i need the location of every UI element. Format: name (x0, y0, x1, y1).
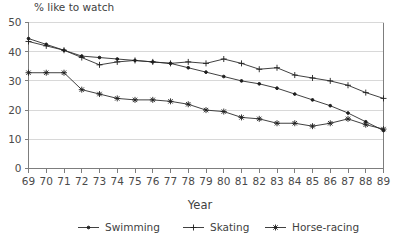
x-tick-label-79: 79 (199, 175, 212, 187)
datapoint-horse-racing-80 (221, 109, 227, 115)
datapoint-swimming-84 (293, 93, 296, 96)
datapoint-swimming-78 (187, 66, 190, 69)
legend-item-skating[interactable]: Skating (183, 221, 249, 233)
datapoint-horse-racing-82 (256, 116, 262, 122)
legend-marker-plus (191, 225, 197, 231)
chart-title: % like to watch (34, 1, 114, 13)
datapoint-horse-racing-87 (345, 116, 351, 122)
x-tick-label-87: 87 (341, 175, 354, 187)
datapoint-horse-racing-78 (185, 101, 191, 107)
x-tick-label-73: 73 (93, 175, 106, 187)
datapoint-swimming-82 (258, 82, 261, 85)
x-tick-label-82: 82 (253, 175, 266, 187)
x-tick-label-88: 88 (359, 175, 372, 187)
datapoint-horse-racing-71 (61, 70, 67, 76)
datapoint-horse-racing-77 (168, 98, 174, 104)
datapoint-skating-83 (274, 65, 280, 71)
datapoint-horse-racing-84 (292, 120, 298, 126)
y-tick-label-20: 20 (8, 104, 21, 116)
y-tick-label-40: 40 (8, 46, 21, 58)
x-tick-label-74: 74 (111, 175, 125, 187)
datapoint-skating-78 (185, 59, 191, 65)
datapoint-horse-racing-88 (363, 122, 369, 128)
datapoint-skating-84 (292, 72, 298, 78)
series-line-swimming (29, 39, 384, 131)
datapoint-swimming-85 (311, 99, 314, 102)
datapoint-skating-80 (221, 56, 227, 62)
legend-label: Swimming (105, 221, 160, 233)
x-tick-label-77: 77 (164, 175, 177, 187)
datapoint-swimming-73 (98, 56, 101, 59)
datapoint-swimming-79 (205, 71, 208, 74)
datapoint-horse-racing-89 (381, 126, 387, 132)
datapoint-skating-73 (97, 62, 103, 68)
y-tick-label-30: 30 (8, 75, 21, 87)
x-tick-label-76: 76 (146, 175, 160, 187)
datapoint-skating-86 (327, 78, 333, 84)
legend-label: Skating (210, 221, 249, 233)
series-horse-racing (26, 70, 387, 132)
datapoint-horse-racing-81 (239, 114, 245, 120)
datapoint-horse-racing-69 (26, 70, 32, 76)
x-tick-label-89: 89 (377, 175, 390, 187)
datapoint-horse-racing-74 (114, 95, 120, 101)
x-tick-label-71: 71 (57, 175, 70, 187)
datapoint-skating-89 (381, 95, 387, 101)
y-tick-label-10: 10 (8, 133, 21, 145)
datapoint-swimming-81 (240, 80, 243, 83)
datapoint-skating-82 (256, 66, 262, 72)
datapoint-skating-76 (150, 59, 156, 65)
line-chart: 01020304050 6970717273747576777879808182… (0, 0, 404, 244)
datapoint-swimming-80 (222, 75, 225, 78)
legend-item-swimming[interactable]: Swimming (78, 221, 160, 233)
datapoint-skating-85 (310, 75, 316, 81)
x-tick-label-81: 81 (235, 175, 248, 187)
x-tick-label-78: 78 (182, 175, 195, 187)
x-axis-title: Year (187, 198, 213, 212)
datapoint-skating-81 (239, 60, 245, 66)
datapoint-horse-racing-79 (203, 107, 209, 113)
datapoint-skating-74 (114, 59, 120, 65)
y-tick-label-0: 0 (15, 162, 22, 174)
x-tick-label-70: 70 (40, 175, 53, 187)
datapoint-skating-79 (203, 60, 209, 66)
x-axis-ticks: 6970717273747576777879808182838485868788… (22, 169, 390, 187)
x-tick-label-80: 80 (217, 175, 230, 187)
datapoint-horse-racing-72 (79, 87, 85, 93)
chart-container: 01020304050 6970717273747576777879808182… (0, 0, 404, 244)
series-skating (26, 38, 387, 101)
x-tick-label-69: 69 (22, 175, 35, 187)
datapoint-skating-88 (363, 90, 369, 96)
datapoint-skating-71 (61, 47, 67, 53)
datapoint-horse-racing-85 (310, 123, 316, 129)
datapoint-horse-racing-83 (274, 120, 280, 126)
y-tick-label-50: 50 (8, 16, 21, 28)
x-tick-label-83: 83 (270, 175, 283, 187)
legend-label: Horse-racing (292, 221, 359, 233)
x-tick-label-72: 72 (75, 175, 88, 187)
x-tick-label-75: 75 (128, 175, 141, 187)
datapoint-swimming-87 (347, 112, 350, 115)
datapoint-skating-77 (168, 60, 174, 66)
axes (29, 23, 384, 169)
legend-marker-dot (87, 226, 90, 229)
x-tick-label-86: 86 (324, 175, 338, 187)
datapoint-horse-racing-76 (150, 97, 156, 103)
datapoint-swimming-86 (329, 104, 332, 107)
datapoint-horse-racing-86 (327, 120, 333, 126)
datapoint-horse-racing-75 (132, 97, 138, 103)
datapoint-horse-racing-70 (43, 70, 49, 76)
datapoint-skating-87 (345, 82, 351, 88)
legend: SwimmingSkatingHorse-racing (78, 221, 359, 233)
x-tick-label-85: 85 (306, 175, 319, 187)
datapoint-swimming-83 (276, 87, 279, 90)
y-axis-ticks: 01020304050 (8, 16, 28, 174)
datapoint-skating-75 (132, 57, 138, 63)
legend-marker-star (273, 225, 279, 231)
legend-item-horse-racing[interactable]: Horse-racing (265, 221, 359, 233)
datapoint-horse-racing-73 (97, 91, 103, 97)
x-tick-label-84: 84 (288, 175, 302, 187)
